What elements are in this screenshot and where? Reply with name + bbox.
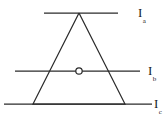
triangle-shape [33,13,125,104]
label-ib: Ib [148,64,156,81]
center-point-marker [76,68,82,74]
label-ia-symbol: I [138,5,142,20]
label-ic-subscript: c [159,108,162,116]
figure-container: Ia Ib Ic [0,0,167,119]
label-ia-subscript: a [143,17,146,25]
label-ia: Ia [138,6,145,23]
label-ib-subscript: b [153,75,157,83]
label-ic: Ic [154,97,161,114]
label-ib-symbol: I [148,63,152,78]
label-ic-symbol: I [154,96,158,111]
